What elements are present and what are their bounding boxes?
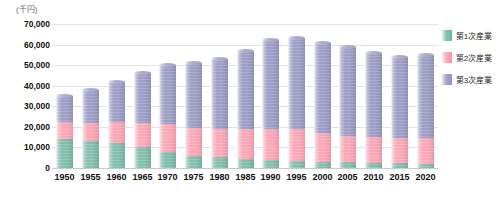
bar-stack <box>288 38 305 168</box>
bar-stack <box>237 51 254 168</box>
bar-top-cap <box>417 53 434 57</box>
y-axis-tick-label: 0 <box>2 163 50 173</box>
bar-segment <box>185 128 202 156</box>
stacked-bar-chart: (千円) 70,00060,00050,00040,00030,00020,00… <box>0 0 502 198</box>
bar-segment <box>211 157 228 168</box>
bar-segment <box>108 82 125 123</box>
bar-segment <box>134 123 151 147</box>
y-axis-unit-label: (千円) <box>16 3 37 14</box>
bar-segment <box>237 129 254 159</box>
bar-segment <box>159 65 176 124</box>
bar-segment <box>365 53 382 138</box>
bar-segment <box>262 129 279 160</box>
bar-segment <box>288 161 305 168</box>
bar-segment <box>417 164 434 168</box>
y-axis-tick-label: 20,000 <box>2 122 50 132</box>
bar-top-cap <box>82 88 99 92</box>
bar-stack <box>417 55 434 168</box>
bar-stack <box>56 96 73 168</box>
bar-top-cap <box>211 57 228 61</box>
bar-segment <box>365 137 382 163</box>
bar-stack <box>365 53 382 168</box>
legend-item-label: 第1次産業 <box>456 30 491 41</box>
bar-segment <box>417 55 434 138</box>
bar-segment <box>56 122 73 138</box>
bar-segment <box>288 38 305 129</box>
bar-segment <box>82 141 99 168</box>
bar-segment <box>108 143 125 168</box>
gridline <box>52 45 438 46</box>
bar-segment <box>314 162 331 168</box>
chart-legend: 第1次産業第2次産業第3次産業 <box>441 26 501 92</box>
bar-segment <box>185 63 202 128</box>
legend-color-swatch <box>441 30 452 41</box>
bar-segment <box>159 124 176 152</box>
bar-stack <box>211 59 228 168</box>
axis-baseline <box>52 168 438 169</box>
bar-segment <box>262 160 279 168</box>
bar-segment <box>56 96 73 122</box>
bar-top-cap <box>108 80 125 84</box>
bar-segment <box>211 129 228 157</box>
bar-top-cap <box>237 49 254 53</box>
bar-stack <box>82 90 99 168</box>
y-axis-tick-label: 10,000 <box>2 142 50 152</box>
bar-segment <box>288 129 305 161</box>
legend-item-label: 第2次産業 <box>456 52 491 63</box>
bar-segment <box>108 122 125 143</box>
bar-top-cap <box>339 45 356 49</box>
bar-segment <box>391 163 408 168</box>
bar-segment <box>314 133 331 162</box>
y-axis-tick-label: 40,000 <box>2 81 50 91</box>
bar-segment <box>56 139 73 168</box>
bar-top-cap <box>365 51 382 55</box>
bar-segment <box>391 138 408 163</box>
bar-stack <box>391 57 408 168</box>
legend-item[interactable]: 第1次産業 <box>441 26 501 44</box>
bar-segment <box>339 162 356 168</box>
bar-segment <box>237 159 254 168</box>
bar-segment <box>391 57 408 138</box>
bar-top-cap <box>314 41 331 45</box>
bar-segment <box>82 90 99 123</box>
legend-item[interactable]: 第2次産業 <box>441 48 501 66</box>
y-axis-tick-label: 70,000 <box>2 19 50 29</box>
bar-segment <box>262 40 279 128</box>
bar-segment <box>339 136 356 163</box>
gridline <box>52 24 438 25</box>
bar-stack <box>314 43 331 168</box>
legend-item-label: 第3次産業 <box>456 74 491 85</box>
bar-stack <box>134 73 151 168</box>
x-axis-tick-label: 2020 <box>406 172 446 182</box>
bar-segment <box>159 152 176 168</box>
legend-color-swatch <box>441 52 452 63</box>
bar-stack <box>108 82 125 168</box>
bar-stack <box>262 40 279 168</box>
y-axis-tick-label: 50,000 <box>2 60 50 70</box>
legend-item[interactable]: 第3次産業 <box>441 70 501 88</box>
bar-stack <box>185 63 202 168</box>
bar-segment <box>365 163 382 168</box>
y-axis-tick-label: 30,000 <box>2 101 50 111</box>
bar-stack <box>339 47 356 168</box>
y-axis-tick-label: 60,000 <box>2 40 50 50</box>
bar-segment <box>211 59 228 129</box>
bar-segment <box>82 123 99 141</box>
bar-segment <box>237 51 254 130</box>
bar-stack <box>159 65 176 168</box>
bar-top-cap <box>56 94 73 98</box>
bar-segment <box>314 43 331 134</box>
bar-segment <box>134 73 151 123</box>
legend-color-swatch <box>441 74 452 85</box>
bar-segment <box>417 138 434 164</box>
x-axis: 1950195519601965197019751980198519901995… <box>52 170 438 190</box>
bar-segment <box>185 156 202 168</box>
bar-segment <box>134 147 151 168</box>
bar-segment <box>339 47 356 136</box>
y-axis: 70,00060,00050,00040,00030,00020,00010,0… <box>0 24 50 168</box>
plot-area <box>52 24 438 168</box>
bar-top-cap <box>391 55 408 59</box>
